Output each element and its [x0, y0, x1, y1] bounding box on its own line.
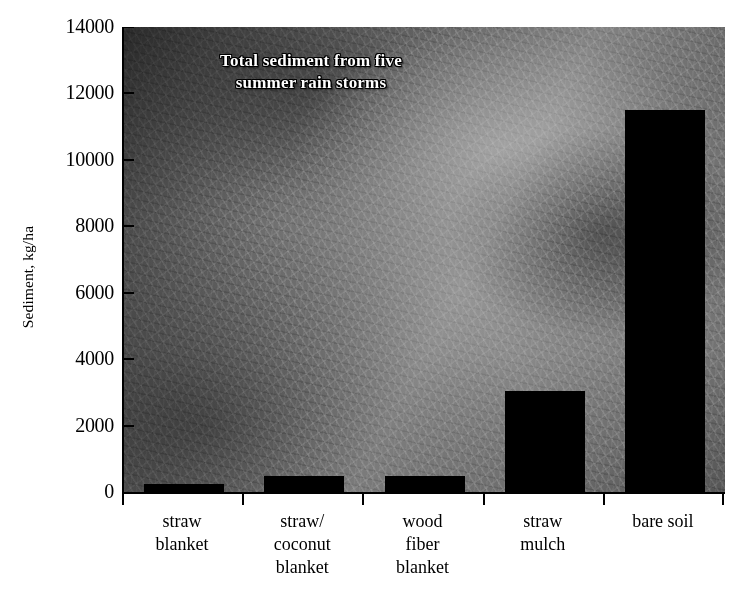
- bar: [625, 110, 705, 492]
- y-axis-tick-mark: [124, 358, 134, 360]
- sediment-bar-chart-figure: Sediment, kg/ha 020004000600080001000012…: [0, 0, 745, 610]
- y-axis-tick-labels: 02000400060008000100001200014000: [0, 0, 114, 510]
- x-axis-category-label-line: straw: [483, 510, 603, 533]
- x-axis-tick-mark: [483, 492, 485, 505]
- x-axis-tick-mark: [242, 492, 244, 505]
- bar: [264, 476, 344, 492]
- y-axis-tick-mark: [124, 292, 134, 294]
- x-axis-tick-mark: [722, 492, 724, 505]
- y-axis-tick-label: 14000: [0, 16, 114, 36]
- x-axis-category-label-line: straw: [122, 510, 242, 533]
- x-axis-tick-mark: [362, 492, 364, 505]
- x-axis-category-label: straw/coconutblanket: [242, 510, 362, 579]
- bar: [505, 391, 585, 492]
- x-axis-category-label-line: blanket: [122, 533, 242, 556]
- y-axis-tick-label: 4000: [0, 348, 114, 368]
- chart-title: Total sediment from five summer rain sto…: [146, 50, 476, 94]
- x-axis-tick-mark: [603, 492, 605, 505]
- x-axis-category-label-line: bare soil: [603, 510, 723, 533]
- x-axis-category-label-line: straw/: [242, 510, 362, 533]
- y-axis-tick-mark: [124, 27, 134, 28]
- y-axis-tick-label: 10000: [0, 149, 114, 169]
- x-axis-category-label: strawblanket: [122, 510, 242, 556]
- x-axis-category-label-line: coconut: [242, 533, 362, 556]
- y-axis-tick-label: 0: [0, 481, 114, 501]
- x-axis-category-labels: strawblanketstraw/coconutblanketwoodfibe…: [122, 510, 723, 605]
- x-axis-category-label: bare soil: [603, 510, 723, 533]
- y-axis-tick-mark: [124, 225, 134, 227]
- x-axis-category-label: woodfiberblanket: [362, 510, 482, 579]
- chart-title-line-1: Total sediment from five: [146, 50, 476, 72]
- x-axis-tick-mark: [122, 492, 124, 505]
- bar: [385, 476, 465, 492]
- y-axis-tick-mark: [124, 92, 134, 94]
- x-axis-category-label-line: wood: [362, 510, 482, 533]
- y-axis-tick-label: 8000: [0, 215, 114, 235]
- y-axis-tick-mark: [124, 159, 134, 161]
- y-axis-tick-label: 12000: [0, 82, 114, 102]
- plot-area: Total sediment from five summer rain sto…: [122, 27, 725, 494]
- chart-title-line-2: summer rain storms: [146, 72, 476, 94]
- y-axis-tick-label: 6000: [0, 282, 114, 302]
- x-axis-category-label: strawmulch: [483, 510, 603, 556]
- x-axis-tick-marks: [122, 492, 725, 506]
- y-axis-tick-mark: [124, 425, 134, 427]
- y-axis-tick-label: 2000: [0, 415, 114, 435]
- x-axis-category-label-line: fiber: [362, 533, 482, 556]
- x-axis-category-label-line: blanket: [242, 556, 362, 579]
- bar: [144, 484, 224, 492]
- x-axis-category-label-line: mulch: [483, 533, 603, 556]
- x-axis-category-label-line: blanket: [362, 556, 482, 579]
